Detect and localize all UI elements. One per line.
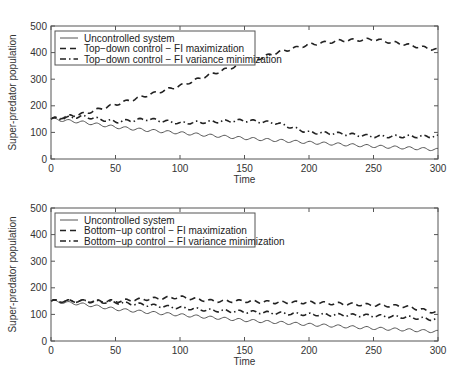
x-tick-label: 300 [430,345,447,356]
series-line-1 [51,300,438,333]
series-line-3 [51,300,438,321]
y-tick-label: 500 [30,21,47,32]
y-tick-label: 200 [30,282,47,293]
y-tick-label: 300 [30,256,47,267]
figure: 0100200300400500050100150200250300TimeSu… [0,0,465,384]
y-tick-label: 400 [30,47,47,58]
y-tick-label: 0 [41,336,47,347]
x-axis-label: Time [234,356,256,367]
x-tick-label: 300 [430,163,447,174]
y-tick-label: 100 [30,309,47,320]
x-tick-label: 150 [236,163,253,174]
x-tick-label: 200 [301,345,318,356]
legend-label: Bottom−up control − FI variance minimiza… [84,236,285,247]
x-tick-label: 0 [48,345,54,356]
x-tick-label: 100 [172,345,189,356]
y-axis-label: Super-predator population [7,34,18,150]
legend: Uncontrolled systemBottom−up control − F… [55,213,285,247]
x-tick-label: 250 [365,345,382,356]
x-tick-label: 50 [110,163,122,174]
x-tick-label: 250 [365,163,382,174]
y-tick-label: 300 [30,74,47,85]
x-tick-label: 50 [110,345,122,356]
series-line-2 [51,296,438,313]
legend-label: Top−down control − FI variance minimizat… [84,54,282,65]
legend-label: Top−down control − FI maximization [84,43,244,54]
y-tick-label: 500 [30,203,47,214]
legend: Uncontrolled systemTop−down control − FI… [55,31,282,65]
series-line-1 [51,118,438,151]
legend-label: Uncontrolled system [84,215,175,226]
chart-1: 0100200300400500050100150200250300TimeSu… [7,21,447,186]
y-tick-label: 0 [41,154,47,165]
y-tick-label: 100 [30,127,47,138]
y-axis-label: Super-predator population [7,216,18,332]
legend-label: Bottom−up control − FI maximization [84,225,247,236]
y-tick-label: 200 [30,100,47,111]
x-tick-label: 150 [236,345,253,356]
x-tick-label: 100 [172,163,189,174]
x-tick-label: 0 [48,163,54,174]
chart-2: 0100200300400500050100150200250300TimeSu… [7,203,447,368]
series-line-3 [51,115,438,138]
legend-label: Uncontrolled system [84,33,175,44]
x-tick-label: 200 [301,163,318,174]
y-tick-label: 400 [30,229,47,240]
x-axis-label: Time [234,174,256,185]
